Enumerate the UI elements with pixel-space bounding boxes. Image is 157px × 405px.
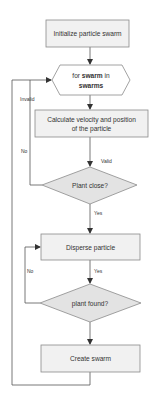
node-plant-close-label: Plant close?: [72, 182, 108, 189]
edge-label-found-yes: Yes: [94, 268, 103, 274]
node-calculate-velocity-line2: of the particle: [72, 125, 112, 133]
node-for-swarm-loop-line2: swarms: [79, 82, 104, 89]
node-initialize-swarm: Initialize particle swarm: [46, 20, 129, 47]
node-plant-found-decision: plant found?: [40, 284, 141, 322]
node-plant-close-decision: Plant close?: [42, 167, 137, 204]
node-initialize-swarm-label: Initialize particle swarm: [53, 30, 122, 38]
edge-label-close-yes: Yes: [94, 210, 103, 216]
node-for-swarm-loop-line1: for swarm in: [72, 72, 110, 79]
edge-plant-found-no-loop: [25, 247, 40, 303]
node-calculate-velocity-line1: Calculate velocity and position: [47, 116, 136, 124]
node-calculate-velocity: Calculate velocity and position of the p…: [35, 110, 148, 137]
edge-label-valid: Valid: [101, 158, 112, 164]
node-disperse-particle: Disperse particle: [41, 234, 140, 260]
node-for-swarm-loop: for swarm in swarms: [52, 65, 130, 95]
node-plant-found-label: plant found?: [72, 300, 109, 308]
node-create-swarm-label: Create swarm: [70, 355, 112, 362]
node-create-swarm: Create swarm: [41, 345, 140, 372]
edge-label-found-no: No: [27, 268, 34, 274]
node-disperse-particle-label: Disperse particle: [66, 244, 115, 252]
edge-label-invalid: Invalid: [20, 96, 35, 102]
edge-label-close-no: No: [21, 148, 28, 154]
flowchart: Initialize particle swarm for swarm in s…: [0, 0, 157, 405]
